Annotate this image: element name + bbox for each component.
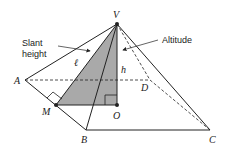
- point-V: [115, 22, 119, 26]
- point-M: [54, 103, 58, 107]
- pyramid-diagram: V A D M O B C ℓ h Slant height Altitude: [0, 0, 228, 153]
- altitude-arrow: [123, 40, 158, 50]
- slant-height-caption-line1: Slant: [22, 38, 43, 48]
- label-V: V: [113, 9, 121, 20]
- label-A: A: [13, 75, 21, 86]
- label-O: O: [113, 110, 120, 121]
- point-O: [115, 103, 119, 107]
- pyramid-figure: V A D M O B C ℓ h Slant height Altitude: [0, 0, 228, 153]
- slant-altitude-triangle: [56, 24, 117, 105]
- altitude-caption: Altitude: [162, 35, 192, 45]
- edge-DC-hidden: [150, 80, 210, 130]
- label-D: D: [140, 82, 149, 93]
- label-B: B: [81, 134, 87, 145]
- label-altitude-symbol: h: [121, 64, 126, 75]
- label-M: M: [41, 106, 51, 117]
- label-C: C: [209, 134, 216, 145]
- right-angle-marker-M: [47, 92, 62, 99]
- label-slant-symbol: ℓ: [74, 57, 78, 68]
- slant-height-caption-line2: height: [22, 49, 47, 59]
